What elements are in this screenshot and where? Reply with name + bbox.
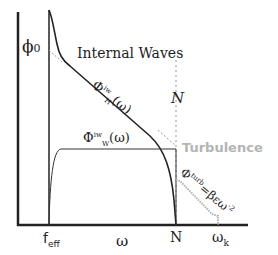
- n-corner-dashed-line: [158, 130, 176, 146]
- spectrum-diagram: [0, 0, 278, 255]
- f-eff-label: feff: [43, 231, 60, 249]
- omega-axis-label: ω: [116, 234, 128, 249]
- turbulence-label: Turbulence: [182, 141, 263, 154]
- vertical-spectrum-curve: [49, 149, 176, 225]
- n-axis-label: N: [170, 230, 182, 244]
- phi0-dashed-line: [49, 50, 62, 62]
- n-italic-label: N: [171, 91, 184, 106]
- omega-k-label: ωk: [212, 230, 229, 248]
- phi0-label: ϕ0: [22, 38, 41, 55]
- horizontal-spectrum-curve: [49, 10, 176, 225]
- phi-w-label: ΦiwW(ω): [83, 131, 130, 148]
- internal-waves-label: Internal Waves: [77, 46, 183, 60]
